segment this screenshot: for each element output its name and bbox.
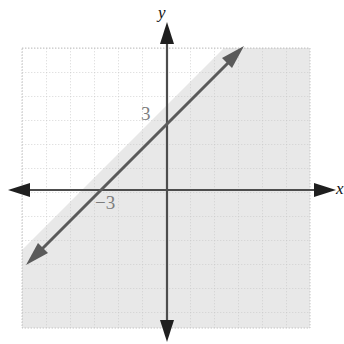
coordinate-plane-graph xyxy=(0,0,344,344)
y-axis-label: y xyxy=(158,4,166,21)
y-intercept-label: 3 xyxy=(141,104,151,123)
x-axis-label: x xyxy=(336,180,344,197)
x-intercept-label: −3 xyxy=(95,193,115,212)
graph-figure: y x 3 −3 xyxy=(0,0,344,344)
